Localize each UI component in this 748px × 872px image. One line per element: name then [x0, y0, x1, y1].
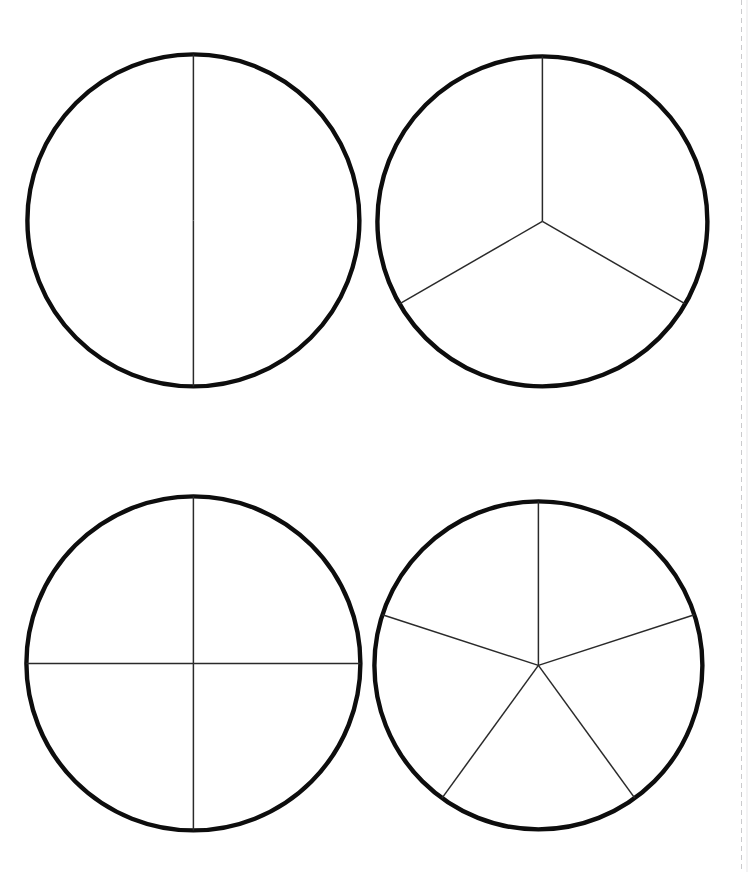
- fraction-circle-grid: [0, 0, 748, 872]
- fraction-circle-halves[interactable]: [19, 46, 368, 395]
- fraction-circle-fifths[interactable]: [366, 493, 711, 838]
- fraction-circle-fifths-svg: [366, 493, 711, 838]
- fraction-circle-quarters[interactable]: [18, 488, 369, 839]
- worksheet-page: [0, 0, 748, 872]
- fraction-circle-thirds-svg: [369, 48, 716, 395]
- fraction-circle-halves-svg: [19, 46, 368, 395]
- scan-edge-artifact: [741, 0, 742, 872]
- fraction-circle-thirds[interactable]: [369, 48, 716, 395]
- fraction-circle-quarters-svg: [18, 488, 369, 839]
